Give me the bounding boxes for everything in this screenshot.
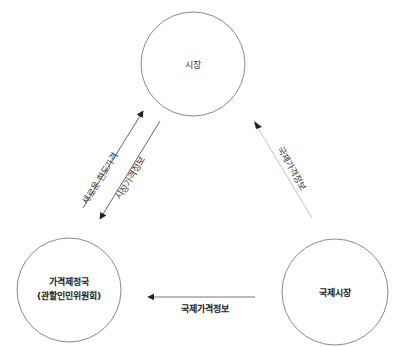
node-intl-market-label: 국제시장 [319, 287, 352, 298]
node-market-label: 시장 [185, 60, 201, 70]
node-market: 시장 [141, 12, 245, 116]
edge-intl-to-market: 국제가격정보 [254, 121, 312, 218]
node-price-authority-label-line1: 가격제정국 [49, 276, 90, 287]
arrowhead-icon [254, 121, 262, 129]
edge-market-price-info-label: 시장가격정보 [113, 155, 148, 202]
node-price-authority: 가격제정국 (관할인민위원회) [17, 238, 121, 342]
node-intl-market: 국제시장 [282, 239, 388, 345]
node-price-authority-label-line2: (관할인민위원회) [37, 290, 101, 301]
diagram-canvas: 시장 가격제정국 (관할인민위원회) 국제시장 새로운 한도가격 시장가격정보 … [0, 0, 393, 347]
edge-intl-to-authority-label: 국제가격정보 [181, 303, 230, 314]
edge-intl-to-authority: 국제가격정보 [148, 297, 255, 314]
edge-new-ceiling-price: 새로운 한도가격 [80, 111, 143, 208]
